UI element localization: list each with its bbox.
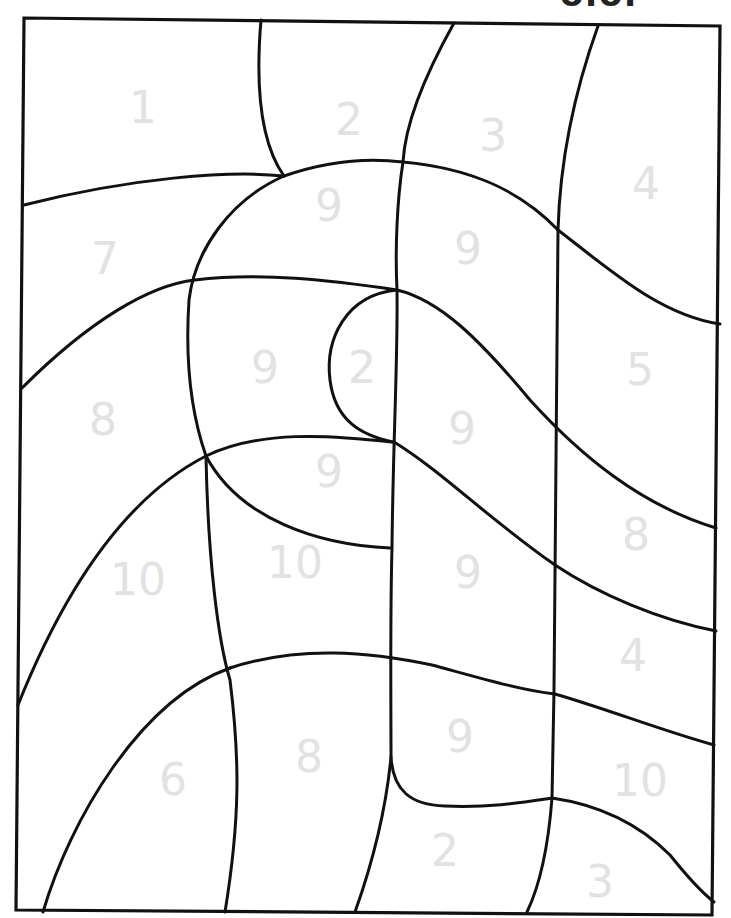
region-number: 3 (586, 860, 614, 904)
region-number: 6 (159, 758, 187, 802)
region-number: 10 (110, 558, 166, 602)
region-number: 9 (448, 407, 476, 451)
color-by-number-sheet: olor (0, 0, 731, 918)
region-number: 7 (91, 237, 119, 281)
divider-8-2-bottom (355, 757, 391, 912)
region-number: 9 (251, 346, 279, 390)
region-number: 10 (612, 759, 668, 803)
region-number: 9 (315, 450, 343, 494)
region-number: 9 (446, 715, 474, 759)
region-number: 9 (454, 551, 482, 595)
curve-6 (43, 668, 230, 912)
region-number: 8 (89, 398, 117, 442)
right-stem (527, 230, 558, 912)
region-number: 1 (129, 86, 157, 130)
divider-10-10 (206, 456, 237, 912)
region-number: 3 (479, 114, 507, 158)
region-number: 4 (632, 162, 660, 206)
wave-bottom (552, 798, 714, 902)
region-number: 9 (315, 184, 343, 228)
divider-1-2 (259, 20, 284, 176)
region-number: 10 (267, 541, 323, 585)
divider-2-3 (403, 23, 454, 162)
region-number: 2 (335, 98, 363, 142)
curve-7-8 (22, 277, 397, 388)
region-number: 2 (348, 346, 376, 390)
region-number: 8 (622, 513, 650, 557)
divider-3-4 (558, 26, 598, 230)
region-number: 4 (619, 634, 647, 678)
region-number: 2 (431, 829, 459, 873)
wave-4-5 (558, 230, 720, 324)
region-number: 9 (454, 227, 482, 271)
region-number: 5 (626, 348, 654, 392)
region-number: 8 (295, 735, 323, 779)
